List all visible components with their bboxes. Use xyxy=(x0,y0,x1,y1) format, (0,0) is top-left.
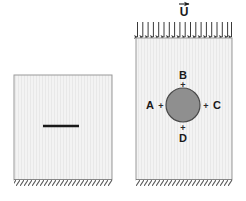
load-label: U xyxy=(180,5,189,19)
left-ground-hatching xyxy=(14,180,112,186)
cracked-plate-body xyxy=(14,75,112,180)
diagram-canvas: U + + + + A B C D xyxy=(0,0,246,201)
marker-plus-b: + xyxy=(180,80,185,90)
load-label-group: U xyxy=(179,4,189,19)
point-label-b: B xyxy=(179,69,187,81)
marker-plus-a: + xyxy=(158,101,163,111)
left-panel-group xyxy=(14,75,112,186)
circular-inclusion xyxy=(166,88,200,122)
distributed-load-arrows xyxy=(138,22,232,37)
point-label-a: A xyxy=(146,99,154,111)
marker-plus-c: + xyxy=(203,101,208,111)
point-label-d: D xyxy=(179,132,187,144)
engineering-diagram: U + + + + A B C D xyxy=(0,0,246,201)
right-ground-hatching xyxy=(136,180,232,186)
point-label-c: C xyxy=(213,99,221,111)
right-panel-group: U + + + + A B C D xyxy=(136,4,232,186)
